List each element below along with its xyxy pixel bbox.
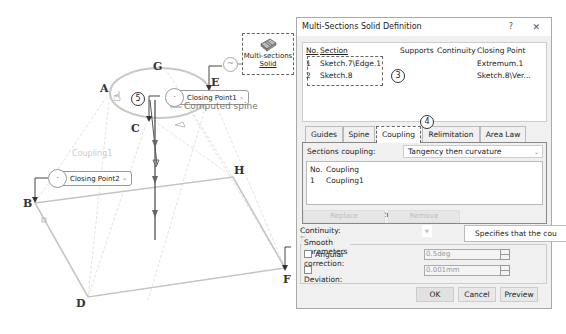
sections-coupling-label: Sections coupling: xyxy=(307,147,376,156)
point-label-g: G xyxy=(153,60,162,73)
ok-button[interactable]: OK xyxy=(416,287,454,302)
section-row1-closing-point[interactable]: Extremum.1 xyxy=(477,59,523,68)
continuity-label: Continuity: xyxy=(300,226,341,235)
multi-sections-solid-tree-node[interactable]: Multi-sections Solid xyxy=(242,33,294,75)
callout-5: 5 xyxy=(131,92,145,106)
sections-list[interactable]: No. Section Supports Continuity Closing … xyxy=(302,42,547,122)
dialog-titlebar[interactable]: Multi-Sections Solid Definition ? ✕ xyxy=(297,18,551,36)
closing-point-icon: · xyxy=(48,169,67,188)
remove-button[interactable]: Remove xyxy=(388,210,460,223)
angular-correction-spinner[interactable] xyxy=(500,249,510,260)
tab-area-law[interactable]: Area Law xyxy=(480,126,526,142)
closing-point2-tag[interactable]: · Closing Point2» xyxy=(51,171,132,186)
col-header-supports[interactable]: Supports xyxy=(400,46,434,55)
coupling-list-row[interactable]: 1 Coupling1 xyxy=(310,176,510,185)
tab-coupling[interactable]: Coupling xyxy=(376,126,421,143)
expand-arrow-icon: » xyxy=(240,94,244,101)
closing-point2-label: Closing Point2 xyxy=(70,175,120,183)
deviation-spinner[interactable] xyxy=(500,265,510,276)
point-label-b: B xyxy=(23,197,32,210)
preview-button[interactable]: Preview xyxy=(500,287,538,302)
multi-section-node-icon: ~ xyxy=(223,57,238,72)
coupling1-curve-label: Coupling1 xyxy=(72,149,112,158)
deviation-input[interactable]: 0.001mm xyxy=(424,265,510,276)
col-header-section[interactable]: Section xyxy=(320,46,348,55)
replace-button[interactable]: Replace xyxy=(303,210,385,223)
continuity-dropdown[interactable]: ▼ xyxy=(422,225,432,237)
coupling-row-name: Coupling1 xyxy=(326,176,364,185)
point-label-h: H xyxy=(234,164,244,177)
point-label-e: E xyxy=(211,76,219,89)
tooltip: Specifies that the cou xyxy=(464,225,566,242)
cancel-button[interactable]: Cancel xyxy=(458,287,496,302)
help-button[interactable]: ? xyxy=(509,18,513,36)
coupling-col-no: No. xyxy=(310,165,322,174)
multi-sections-solid-icon xyxy=(258,36,278,52)
coupling-col-coupling: Coupling xyxy=(326,165,359,174)
section-row2-closing-point[interactable]: Sketch.8\Ver... xyxy=(477,71,531,80)
col-header-no[interactable]: No. xyxy=(306,46,318,55)
angular-correction-checkbox[interactable] xyxy=(304,250,312,258)
sections-coupling-value: Tangency then curvature xyxy=(408,147,501,156)
tab-spine[interactable]: Spine xyxy=(343,126,375,142)
mss-label-line1: Multi-sections xyxy=(243,52,293,60)
tab-guides[interactable]: Guides xyxy=(305,126,343,142)
deviation-option[interactable]: Deviation: xyxy=(304,266,342,284)
col-header-closing-point[interactable]: Closing Point xyxy=(477,46,525,55)
close-button[interactable]: ✕ xyxy=(532,18,540,36)
deviation-label: Deviation: xyxy=(304,275,342,284)
point-label-d: D xyxy=(76,297,86,310)
chevron-down-icon: ⌄ xyxy=(534,146,539,157)
hand-cursor-icon: ☝ xyxy=(113,89,121,104)
point-label-c: C xyxy=(131,122,140,135)
deviation-checkbox[interactable] xyxy=(304,266,312,274)
dialog-title: Multi-Sections Solid Definition xyxy=(302,22,422,31)
tab-relimitation[interactable]: Relimitation xyxy=(422,126,480,142)
angular-correction-input[interactable]: 0.5deg xyxy=(424,249,510,260)
point-label-f: F xyxy=(283,273,291,286)
closing-point-icon: · xyxy=(165,88,184,107)
callout-3: 3 xyxy=(391,69,405,83)
mss-label-line2: Solid xyxy=(243,60,293,68)
coupling-list[interactable]: No. Coupling 1 Coupling1 xyxy=(306,161,543,205)
sections-highlight xyxy=(307,56,383,86)
callout-4: 4 xyxy=(420,115,434,129)
computed-spine-label: Computed spine xyxy=(184,101,258,111)
coupling-list-header: No. Coupling xyxy=(310,165,322,174)
col-header-continuity[interactable]: Continuity xyxy=(437,46,476,55)
expand-arrow-icon: » xyxy=(123,175,127,182)
point-label-a: A xyxy=(100,82,109,95)
coupling-row-no: 1 xyxy=(310,176,315,185)
sections-coupling-select[interactable]: Tangency then curvature ⌄ xyxy=(403,145,543,158)
